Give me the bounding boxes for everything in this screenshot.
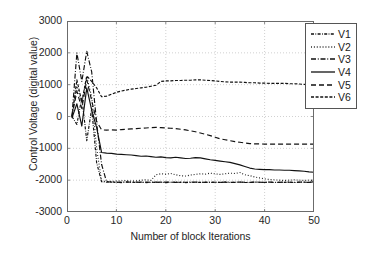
y-tick-label: 3000 <box>28 14 62 26</box>
legend-label: V1 <box>336 28 351 40</box>
y-axis-tick-labels: 3000200010000-1000-2000-3000 <box>26 21 62 212</box>
x-tick-label: 20 <box>151 214 181 226</box>
legend-item-v2[interactable]: V2 <box>310 41 351 54</box>
x-axis-label: Number of block Iterations <box>67 230 314 242</box>
plot-area <box>67 21 314 212</box>
y-tick-label: 1000 <box>28 78 62 90</box>
legend-key-v1-icon <box>310 28 336 40</box>
legend-key-v4-icon <box>310 66 336 78</box>
legend-label: V2 <box>336 41 351 53</box>
legend-item-v4[interactable]: V4 <box>310 66 351 79</box>
plot-frame <box>67 21 314 212</box>
legend-label: V5 <box>336 79 351 91</box>
y-tick-label: -1000 <box>28 141 62 153</box>
legend-label: V4 <box>336 66 351 78</box>
x-tick-label: 30 <box>200 214 230 226</box>
chart-figure: Control Voltage (digital value) Number o… <box>0 0 377 253</box>
x-tick-label: 10 <box>101 214 131 226</box>
legend-key-v5-icon <box>310 79 336 91</box>
legend-key-v3-icon <box>310 53 336 65</box>
legend-label: V3 <box>336 53 351 65</box>
legend-key-v6-icon <box>310 91 336 103</box>
x-tick-label: 40 <box>250 214 280 226</box>
legend-item-v5[interactable]: V5 <box>310 78 351 91</box>
legend[interactable]: V1V2V3V4V5V6 <box>305 23 357 109</box>
legend-item-v3[interactable]: V3 <box>310 53 351 66</box>
y-tick-label: -2000 <box>28 173 62 185</box>
x-axis-tick-labels: 01020304050 <box>67 214 314 230</box>
legend-key-v2-icon <box>310 41 336 53</box>
y-tick-label: 2000 <box>28 46 62 58</box>
legend-item-v1[interactable]: V1 <box>310 28 351 41</box>
legend-item-v6[interactable]: V6 <box>310 91 351 104</box>
x-tick-label: 0 <box>52 214 82 226</box>
legend-label: V6 <box>336 91 351 103</box>
y-tick-label: 0 <box>28 110 62 122</box>
x-tick-label: 50 <box>299 214 329 226</box>
